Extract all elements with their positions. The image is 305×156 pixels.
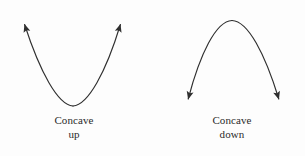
concave-up-right-branch <box>73 25 120 107</box>
concave-down-caption: Concave down <box>172 114 292 141</box>
concave-up-caption: Concave up <box>14 114 134 141</box>
concave-down-caption-line1: Concave <box>172 114 292 128</box>
concave-down-caption-line2: down <box>172 128 292 142</box>
concave-up-caption-line2: up <box>14 128 134 142</box>
concave-down-right-branch <box>232 21 279 100</box>
concave-down-left-branch <box>188 21 232 100</box>
concavity-figure: Concave up Concave down <box>0 0 305 156</box>
concave-up-left-branch <box>25 25 73 107</box>
concave-up-caption-line1: Concave <box>14 114 134 128</box>
